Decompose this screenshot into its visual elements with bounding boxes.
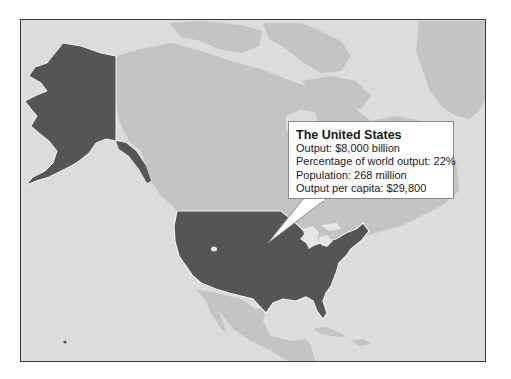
- hawaii-island: [63, 340, 66, 343]
- callout-world-share: Percentage of world output: 22%: [296, 155, 453, 168]
- country-info-callout: The United States Output: $8,000 billion…: [288, 121, 454, 199]
- callout-population: Population: 268 million: [296, 169, 453, 182]
- callout-title: The United States: [296, 128, 453, 142]
- callout-output: Output: $8,000 billion: [296, 142, 453, 155]
- great-salt-lake: [211, 247, 217, 252]
- callout-output-per-capita: Output per capita: $29,800: [296, 182, 453, 195]
